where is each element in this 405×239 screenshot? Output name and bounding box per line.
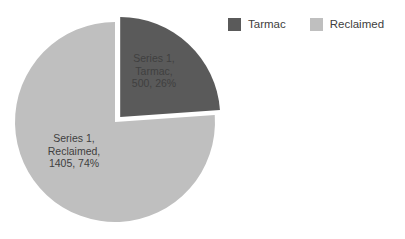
pie-slice-tarmac[interactable] xyxy=(120,17,220,117)
legend-swatch-reclaimed-icon xyxy=(310,18,323,31)
pie-chart-graphic xyxy=(0,0,405,239)
pie-chart-figure: Series 1, Tarmac, 500, 26% Series 1, Rec… xyxy=(0,0,405,239)
chart-legend: Tarmac Reclaimed xyxy=(228,18,384,31)
legend-item-tarmac[interactable]: Tarmac xyxy=(228,18,286,31)
legend-swatch-tarmac-icon xyxy=(228,18,241,31)
legend-label-tarmac: Tarmac xyxy=(248,19,286,31)
legend-label-reclaimed: Reclaimed xyxy=(330,19,384,31)
legend-item-reclaimed[interactable]: Reclaimed xyxy=(310,18,384,31)
